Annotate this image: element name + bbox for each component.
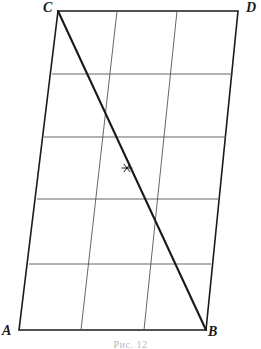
grid-line-vertical-2 [144, 11, 177, 330]
vertex-label-c: C [43, 1, 52, 15]
diagonal-line-cb [58, 11, 206, 330]
vertex-label-a: A [2, 324, 11, 338]
figure-canvas [0, 0, 261, 349]
vertex-label-d: D [246, 1, 256, 15]
geometry-figure: C D A B Рис. 12 [0, 0, 261, 349]
grid-line-vertical-1 [81, 11, 117, 330]
vertex-label-b: B [208, 325, 217, 339]
figure-caption: Рис. 12 [0, 340, 261, 349]
